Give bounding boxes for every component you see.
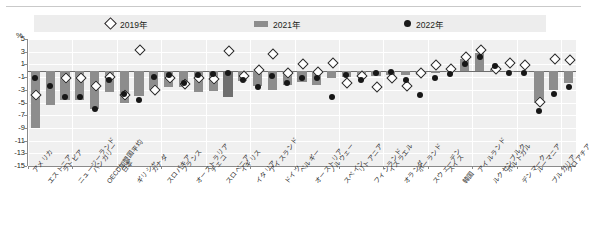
y-axis-tick [24, 141, 27, 142]
marker-2022 [181, 80, 187, 86]
legend-item-2021: 2021年 [254, 15, 301, 32]
x-axis-tick [117, 166, 118, 169]
circle-filled-marker-icon [404, 20, 411, 27]
x-axis-tick [161, 166, 162, 169]
marker-2022 [358, 77, 364, 83]
y-axis-tick [24, 115, 27, 116]
marker-2019 [371, 81, 382, 92]
x-axis-tick [383, 166, 384, 169]
y-axis-tick [24, 64, 27, 65]
bar-2021 [401, 71, 410, 75]
x-axis-tick [339, 166, 340, 169]
y-axis-tick [24, 103, 27, 104]
y-axis-line [27, 39, 28, 166]
marker-2022 [536, 108, 542, 114]
y-axis-tick [24, 39, 27, 40]
x-axis-tick [28, 166, 29, 169]
x-axis-tick-label: 韓国 [462, 170, 476, 185]
grid-line-vertical [428, 39, 429, 166]
grid-line-horizontal [28, 39, 576, 40]
legend-label: 2021年 [273, 18, 301, 30]
y-axis-tick-labels: 531-1-3-5-7-9-11-13-15 [0, 39, 25, 166]
marker-2022 [388, 69, 394, 75]
marker-2019 [327, 57, 338, 68]
grid-line-vertical [161, 39, 162, 166]
marker-2019 [134, 44, 145, 55]
legend-label: 2022年 [416, 18, 444, 30]
marker-2019 [505, 57, 516, 68]
marker-2022 [240, 77, 246, 83]
chart-legend: 2019年 2021年 2022年 [34, 15, 546, 32]
x-axis-tick [517, 166, 518, 169]
marker-2022 [329, 94, 335, 100]
marker-2022 [521, 70, 527, 76]
grid-line-vertical [72, 39, 73, 166]
marker-2022 [92, 106, 98, 112]
legend-item-2022: 2022年 [404, 15, 444, 32]
marker-2019 [297, 58, 308, 69]
grid-line-horizontal [28, 128, 576, 129]
bar-swatch-icon [254, 21, 268, 27]
marker-2022 [506, 70, 512, 76]
marker-2019 [549, 53, 560, 64]
marker-2022 [121, 91, 127, 97]
y-axis-tick [24, 90, 27, 91]
grid-line-vertical [206, 39, 207, 166]
marker-2022 [551, 91, 557, 97]
x-axis-tick [561, 166, 562, 169]
marker-2019 [268, 48, 279, 59]
marker-2022 [432, 75, 438, 81]
marker-2022 [284, 80, 290, 86]
x-axis-tick [428, 166, 429, 169]
x-axis-tick [206, 166, 207, 169]
bar-2021 [327, 71, 336, 79]
bar-2021 [134, 71, 143, 96]
marker-2022 [195, 72, 201, 78]
marker-2022 [417, 92, 423, 98]
grid-line-vertical [28, 39, 29, 166]
marker-2022 [447, 71, 453, 77]
marker-2022 [210, 71, 216, 77]
bar-2021 [549, 71, 558, 90]
top-divider [6, 6, 581, 7]
grid-line-horizontal [28, 103, 576, 104]
marker-2022 [225, 70, 231, 76]
x-axis-tick-labels: アメリカエストニアラトビアニュージーランドハンガリーOECD加盟国平均日本ギリシ… [0, 168, 587, 236]
marker-2022 [151, 74, 157, 80]
marker-2022 [492, 63, 498, 69]
legend-label: 2019年 [120, 18, 148, 30]
x-axis-tick [295, 166, 296, 169]
x-axis-tick [72, 166, 73, 169]
marker-2022 [136, 97, 142, 103]
grid-line-vertical [472, 39, 473, 166]
x-axis-tick [472, 166, 473, 169]
diamond-outline-marker-icon [104, 17, 117, 30]
marker-2022 [255, 84, 261, 90]
grid-line-vertical [250, 39, 251, 166]
y-axis-tick [24, 52, 27, 53]
marker-2022 [403, 77, 409, 83]
x-axis-tick [250, 166, 251, 169]
marker-2019 [342, 77, 353, 88]
grid-line-horizontal [28, 115, 576, 116]
grid-line-horizontal [28, 52, 576, 53]
marker-2019 [431, 60, 442, 71]
y-axis-tick [24, 153, 27, 154]
y-axis-tick [24, 128, 27, 129]
marker-2022 [566, 84, 572, 90]
y-axis-tick [24, 77, 27, 78]
y-axis-tick [24, 166, 27, 167]
legend-item-2019: 2019年 [106, 15, 148, 32]
marker-2022 [166, 72, 172, 78]
marker-2022 [477, 54, 483, 60]
marker-2019 [223, 45, 234, 56]
bar-2021 [564, 71, 573, 84]
bar-2021 [431, 71, 440, 74]
